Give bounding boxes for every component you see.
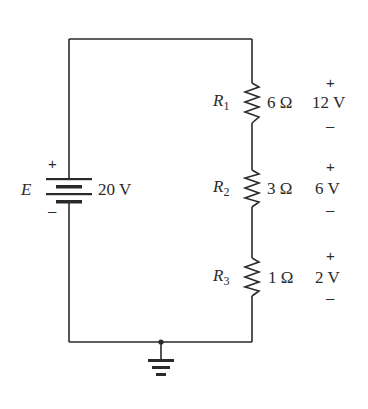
- resistor-r2-icon: [245, 170, 259, 207]
- resistor-r3-subscript: 3: [223, 274, 229, 288]
- resistor-r3-minus-sign: –: [326, 290, 334, 305]
- resistor-r2-name: R2: [213, 178, 229, 195]
- resistor-r1-value: 6 Ω: [267, 94, 292, 111]
- resistor-r1-icon: [245, 83, 259, 123]
- resistor-r2-plus-sign: +: [326, 159, 335, 174]
- resistor-r1-plus-sign: +: [326, 75, 335, 90]
- resistor-r2-minus-sign: –: [326, 202, 334, 217]
- resistor-r3-value: 1 Ω: [268, 269, 293, 286]
- ground-node: [158, 339, 163, 344]
- resistor-r3-icon: [245, 258, 259, 296]
- battery-icon: [46, 178, 92, 204]
- source-name: E: [21, 181, 31, 198]
- source-plus-sign: +: [48, 156, 57, 171]
- resistor-r3-letter: R: [213, 266, 223, 285]
- resistor-r1-subscript: 1: [223, 99, 229, 113]
- resistor-r3-voltage: 2 V: [315, 269, 340, 286]
- resistor-r2-value: 3 Ω: [267, 180, 292, 197]
- source-value: 20 V: [98, 181, 131, 198]
- resistor-r1-letter: R: [213, 91, 223, 110]
- source-minus-sign: –: [48, 203, 56, 218]
- ground-icon: [148, 359, 174, 376]
- resistor-r1-voltage: 12 V: [312, 94, 345, 111]
- resistor-r2-subscript: 2: [223, 185, 229, 199]
- resistor-r1-minus-sign: –: [326, 118, 334, 133]
- resistor-r2-voltage: 6 V: [315, 180, 340, 197]
- resistor-r3-plus-sign: +: [326, 248, 335, 263]
- resistor-r3-name: R3: [213, 267, 229, 284]
- resistor-r2-letter: R: [213, 177, 223, 196]
- resistor-r1-name: R1: [213, 92, 229, 109]
